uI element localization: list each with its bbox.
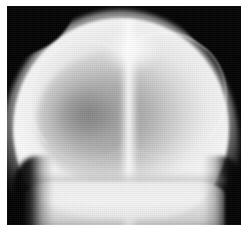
- skull-base-block: [25, 182, 225, 225]
- left-tissue-notch: [13, 156, 53, 225]
- film-plate: [7, 6, 241, 225]
- right-tissue-notch: [203, 156, 241, 225]
- vertex-highlight: [103, 26, 161, 74]
- radiograph-frame: [0, 0, 244, 230]
